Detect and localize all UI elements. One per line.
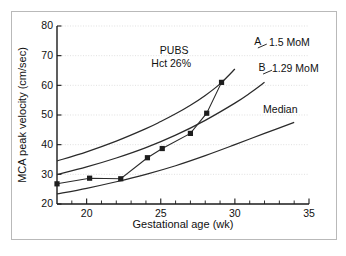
curve-a-letter: A [254, 35, 261, 47]
y-tick-label: 30 [41, 168, 53, 180]
data-point-marker [87, 176, 92, 181]
y-tick-label: 80 [41, 19, 53, 31]
data-point-marker [54, 181, 59, 186]
curve-b-letter: B [259, 61, 266, 73]
y-tick-labels: 20304050607080 [41, 19, 53, 209]
x-tick-label: 35 [303, 207, 315, 219]
hct-label: Hct 26% [151, 57, 191, 69]
y-tick-label: 20 [41, 197, 53, 209]
y-tick-label: 60 [41, 79, 53, 91]
x-axis-title: Gestational age (wk) [133, 218, 234, 230]
pubs-data-markers [54, 80, 224, 187]
curve-a-name: 1.5 MoM [269, 36, 310, 48]
mca-peak-velocity-chart: 20304050607080 20253035 PUBSHct 26%A1.5 … [12, 12, 336, 239]
curve-1-29-mom [57, 82, 265, 174]
x-tick-label: 20 [81, 207, 93, 219]
y-tick-label: 50 [41, 108, 53, 120]
y-tick-label: 70 [41, 49, 53, 61]
figure-frame: 20304050607080 20253035 PUBSHct 26%A1.5 … [11, 11, 337, 240]
x-axis-ticks [87, 199, 309, 205]
median-name: Median [263, 103, 298, 115]
curve-b-name: 1.29 MoM [272, 62, 319, 74]
data-point-marker [188, 131, 193, 136]
data-point-marker [118, 176, 123, 181]
data-point-marker [145, 155, 150, 160]
data-point-marker [204, 111, 209, 116]
data-point-marker [219, 80, 224, 85]
curve-median [57, 122, 294, 193]
data-point-marker [160, 146, 165, 151]
pubs-label: PUBS [160, 44, 189, 56]
y-tick-label: 40 [41, 138, 53, 150]
reference-curves [57, 69, 294, 194]
y-axis-title: MCA peak velocity (cm/sec) [16, 47, 28, 183]
